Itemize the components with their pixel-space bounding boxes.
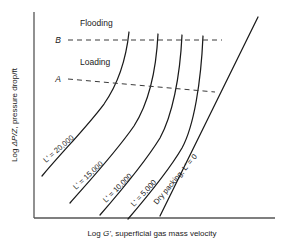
region-label-flooding: Flooding — [80, 18, 113, 28]
y-axis-label-symbol: ΔP/Z — [10, 127, 19, 147]
x-axis-label-prefix: Log — [87, 229, 103, 238]
x-axis-label: Log G', superficial gas mass velocity — [87, 229, 216, 238]
y-axis-label-suffix: , pressure drop/ft — [10, 67, 19, 128]
curve-label-dry-packing: Dry packing, L' = 0 — [152, 152, 199, 206]
pressure-drop-chart: B A Flooding Loading L' = 20,000 L' = 15… — [0, 0, 286, 249]
y-axis-label-prefix: Log — [10, 146, 19, 162]
y-axis-label: Log ΔP/Z, pressure drop/ft — [10, 67, 19, 162]
curve-label-l-20000: L' = 20,000 — [41, 133, 75, 164]
marker-label-a: A — [54, 74, 61, 84]
loading-line-a: A — [54, 74, 215, 92]
curve-label-l-10000: L' = 10,000 — [101, 171, 134, 204]
region-label-loading: Loading — [80, 57, 111, 67]
flooding-line-b: B — [55, 35, 222, 45]
x-axis-label-suffix: , superficial gas mass velocity — [111, 229, 217, 238]
curve-label-l-5000: L' = 5,000 — [129, 178, 158, 209]
curve-label-l-15000: L' = 15,000 — [71, 159, 105, 191]
dashed-line-a — [68, 79, 215, 92]
marker-label-b: B — [55, 35, 61, 45]
